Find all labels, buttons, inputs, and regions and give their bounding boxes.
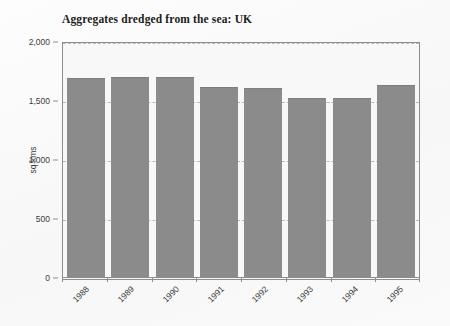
bar-slot — [64, 43, 108, 277]
bar-1995[interactable] — [377, 85, 415, 277]
x-tick-slot: 1994 — [331, 282, 376, 324]
x-axis: 19881989199019911992199319941995 — [62, 278, 420, 324]
plot-frame — [62, 42, 420, 278]
bar-series — [63, 43, 419, 277]
x-tick-label-1993: 1993 — [295, 284, 315, 304]
bar-1988[interactable] — [67, 78, 105, 277]
x-tick-label-1988: 1988 — [71, 284, 91, 304]
x-tick-slot: 1989 — [107, 282, 152, 324]
y-tick-mark — [53, 160, 58, 161]
bar-1989[interactable] — [111, 77, 149, 277]
y-tick-label: 0 — [45, 273, 50, 283]
x-tick-slot: 1991 — [196, 282, 241, 324]
y-tick-label: 1,500 — [29, 96, 50, 106]
y-tick-mark — [53, 101, 58, 102]
plot-area — [63, 43, 419, 277]
bar-slot — [285, 43, 329, 277]
bar-slot — [330, 43, 374, 277]
y-tick-mark — [53, 42, 58, 43]
x-tick-slot: 1988 — [62, 282, 107, 324]
x-tick-label-1990: 1990 — [160, 284, 180, 304]
bar-1993[interactable] — [288, 98, 326, 277]
bar-1994[interactable] — [333, 98, 371, 277]
y-tick-mark — [53, 219, 58, 220]
x-tick-slot: 1990 — [152, 282, 197, 324]
y-tick-mark — [53, 278, 58, 279]
y-tick-label: 2,000 — [29, 37, 50, 47]
x-tick-slot: 1992 — [241, 282, 286, 324]
bar-slot — [241, 43, 285, 277]
bar-slot — [153, 43, 197, 277]
x-tick-slot: 1995 — [375, 282, 420, 324]
x-tick-label-1994: 1994 — [339, 284, 359, 304]
x-tick-label-1995: 1995 — [384, 284, 404, 304]
bar-slot — [374, 43, 418, 277]
y-tick-label: 500 — [36, 214, 50, 224]
bar-slot — [108, 43, 152, 277]
bar-slot — [197, 43, 241, 277]
bar-1992[interactable] — [244, 88, 282, 277]
x-tick-slot: 1993 — [286, 282, 331, 324]
chart-page: Aggregates dredged from the sea: UK sq k… — [0, 0, 450, 326]
x-tick-label-1992: 1992 — [250, 284, 270, 304]
bar-1991[interactable] — [200, 87, 238, 277]
y-tick-label: 1,000 — [29, 155, 50, 165]
y-axis: 05001,0001,5002,000 — [0, 42, 58, 278]
x-tick-label-1991: 1991 — [205, 284, 225, 304]
chart-title: Aggregates dredged from the sea: UK — [62, 13, 252, 25]
x-tick-label-1989: 1989 — [116, 284, 136, 304]
bar-1990[interactable] — [156, 77, 194, 277]
